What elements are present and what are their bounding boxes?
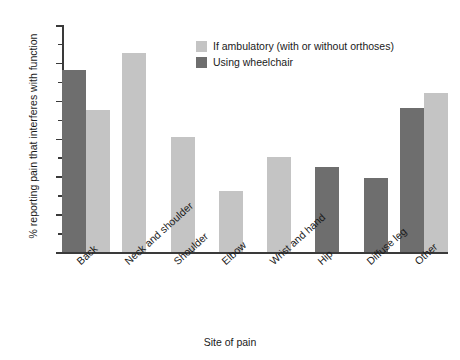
y-tick-minor-55 xyxy=(58,44,62,46)
bar xyxy=(315,167,339,252)
y-tick-40 xyxy=(56,101,62,103)
legend-label-wheelchair: Using wheelchair xyxy=(213,57,293,68)
bar xyxy=(122,53,146,252)
y-axis-title: % reporting pain that interferes with fu… xyxy=(27,11,39,261)
bar xyxy=(171,137,195,252)
bar-chart-figure: % reporting pain that interferes with fu… xyxy=(0,0,460,360)
y-tick-30 xyxy=(56,139,62,141)
x-axis-title: Site of pain xyxy=(0,336,460,348)
x-axis-line xyxy=(62,252,448,254)
legend-label-ambulatory: If ambulatory (with or without orthoses) xyxy=(213,41,394,52)
y-tick-0 xyxy=(56,252,62,254)
legend-swatch-wheelchair xyxy=(196,57,207,68)
bar xyxy=(62,70,86,252)
legend-item-wheelchair: Using wheelchair xyxy=(196,56,394,69)
bar xyxy=(86,110,110,252)
y-tick-50 xyxy=(56,63,62,65)
legend-item-ambulatory: If ambulatory (with or without orthoses) xyxy=(196,40,394,53)
y-tick-10 xyxy=(56,214,62,216)
chart-legend: If ambulatory (with or without orthoses)… xyxy=(196,40,394,72)
bar xyxy=(424,93,448,252)
y-tick-60 xyxy=(56,25,62,27)
legend-swatch-ambulatory xyxy=(196,41,207,52)
y-tick-20 xyxy=(56,176,62,178)
